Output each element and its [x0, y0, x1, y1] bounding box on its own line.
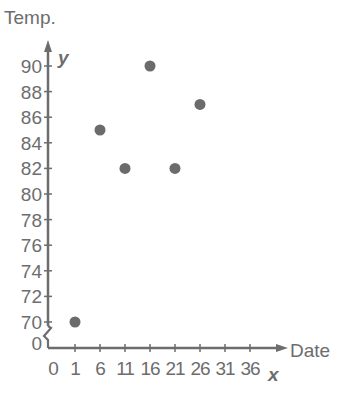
y-tick-label: 80 — [21, 184, 42, 205]
axis-break-icon — [44, 326, 51, 348]
y-axis-letter: y — [57, 47, 70, 68]
data-points — [70, 61, 206, 328]
x-tick-label: 26 — [190, 358, 210, 379]
data-point — [95, 125, 106, 136]
y-tick-label: 90 — [21, 56, 42, 77]
data-point — [195, 99, 206, 110]
x-tick-label: 11 — [116, 358, 134, 379]
y-tick-label: 76 — [21, 235, 42, 256]
scatter-chart: 07072747678808284868890 016111621263136 … — [0, 0, 347, 393]
x-axis-arrow-icon — [276, 344, 288, 352]
y-tick-label: 70 — [21, 312, 42, 333]
x-tick-label: 16 — [140, 358, 160, 379]
x-axis-label: Date — [290, 340, 330, 361]
x-tick-label: 36 — [240, 358, 260, 379]
x-tick-label: 21 — [165, 358, 185, 379]
x-tick-label: 31 — [215, 358, 235, 379]
x-tick-label: 0 — [48, 358, 58, 379]
y-axis-arrow-icon — [44, 40, 52, 52]
y-tick-label: 84 — [21, 133, 43, 154]
y-tick-label: 74 — [21, 261, 43, 282]
data-point — [120, 163, 131, 174]
y-tick-label: 88 — [21, 82, 42, 103]
data-point — [170, 163, 181, 174]
x-axis-letter: x — [267, 364, 280, 385]
y-tick-label: 0 — [31, 333, 42, 354]
y-tick-label: 72 — [21, 286, 42, 307]
y-tick-label: 82 — [21, 158, 42, 179]
x-tick-label: 6 — [95, 358, 105, 379]
y-tick-label: 86 — [21, 107, 42, 128]
data-point — [70, 317, 81, 328]
y-axis-label: Temp. — [4, 7, 56, 28]
axes — [44, 40, 288, 352]
x-tick-label: 1 — [70, 358, 80, 379]
data-point — [145, 61, 156, 72]
y-tick-label: 78 — [21, 210, 42, 231]
